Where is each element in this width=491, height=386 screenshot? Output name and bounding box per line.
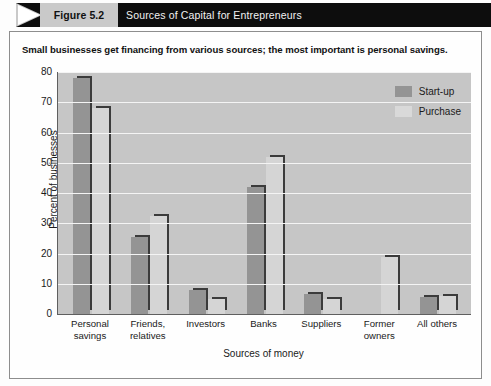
y-tick-label: 60 — [26, 127, 52, 138]
figure-card: Figure 5.2 Sources of Capital for Entrep… — [0, 0, 491, 386]
figure-subtitle: Small businesses get financing from vari… — [22, 44, 472, 55]
x-tick-label: Personalsavings — [61, 318, 119, 341]
x-tick-label: Banks — [235, 318, 293, 341]
y-tick-label: 30 — [26, 217, 52, 228]
x-axis-ticks: PersonalsavingsFriends,relativesInvestor… — [57, 318, 470, 341]
x-tick-label: Formerowners — [350, 318, 408, 341]
gridline — [58, 284, 471, 285]
legend-item-startup: Start-up — [395, 86, 461, 97]
y-tick-label: 70 — [26, 96, 52, 107]
y-tick-label: 40 — [26, 187, 52, 198]
bar-startup — [189, 290, 206, 314]
bar-startup — [420, 297, 437, 314]
gridline — [58, 163, 471, 164]
bar-purchase — [439, 296, 456, 314]
gridline — [58, 254, 471, 255]
legend-item-purchase: Purchase — [395, 106, 461, 117]
figure-title: Sources of Capital for Entrepreneurs — [126, 3, 302, 27]
bar-startup — [304, 294, 321, 314]
x-tick-label: Investors — [177, 318, 235, 341]
y-tick-label: 50 — [26, 157, 52, 168]
figure-number-tag: Figure 5.2 — [40, 3, 118, 27]
x-axis-label: Sources of money — [57, 348, 470, 359]
bar-startup — [73, 78, 90, 314]
y-tick-label: 80 — [26, 66, 52, 77]
x-tick-label: Suppliers — [292, 318, 350, 341]
gridline — [58, 102, 471, 103]
gridline — [58, 72, 471, 73]
bar-purchase — [266, 157, 283, 314]
bar-purchase — [150, 216, 167, 314]
y-tick-label: 0 — [26, 308, 52, 319]
y-tick-label: 20 — [26, 248, 52, 259]
y-axis-ticks: 80706050403020100 — [22, 72, 52, 314]
gridline — [58, 193, 471, 194]
plot-area: Start-up Purchase — [57, 72, 471, 315]
y-tick-label: 10 — [26, 278, 52, 289]
figure-header: Figure 5.2 Sources of Capital for Entrep… — [0, 3, 491, 27]
bar-startup — [131, 237, 148, 314]
legend-label-startup: Start-up — [419, 86, 455, 97]
gridline — [58, 223, 471, 224]
bar-purchase — [381, 257, 398, 314]
gridline — [58, 133, 471, 134]
legend-label-purchase: Purchase — [419, 106, 461, 117]
bar-purchase — [323, 299, 340, 314]
x-tick-label: Friends,relatives — [119, 318, 177, 341]
legend-swatch-purchase-icon — [395, 106, 412, 117]
bar-chart: Percent of businesses 80706050403020100 … — [22, 66, 472, 366]
bar-purchase — [208, 299, 225, 314]
bar-startup — [247, 187, 264, 314]
legend-swatch-startup-icon — [395, 86, 412, 97]
figure-number-label: Figure 5.2 — [54, 9, 105, 21]
x-tick-label: All others — [408, 318, 466, 341]
